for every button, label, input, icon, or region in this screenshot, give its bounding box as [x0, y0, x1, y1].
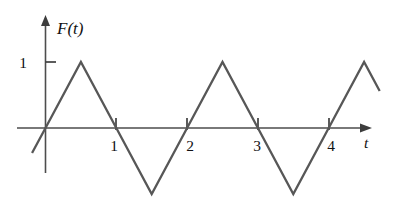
- x-tick-label-3: 3: [253, 137, 261, 154]
- y-axis-label: F(t): [56, 19, 84, 38]
- x-tick-label-1: 1: [110, 137, 118, 154]
- triangle-wave-chart: F(t) t 1 1 2 3 4: [0, 0, 400, 203]
- x-axis-label: t: [364, 134, 369, 151]
- y-tick-label-1: 1: [19, 54, 27, 71]
- figure-container: F(t) t 1 1 2 3 4: [0, 0, 400, 203]
- x-tick-label-2: 2: [186, 137, 194, 154]
- x-tick-label-4: 4: [327, 137, 335, 154]
